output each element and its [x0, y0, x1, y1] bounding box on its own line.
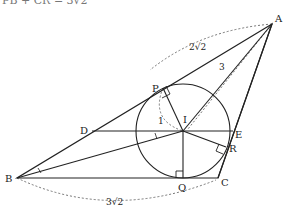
side-ac — [218, 24, 272, 178]
label-c: C — [221, 177, 229, 188]
label-i: I — [183, 114, 187, 125]
label-ap-length: 2√2 — [189, 42, 206, 52]
geometry-figure: A B C D E I P Q R 2√2 3 1 3√2 — [0, 0, 286, 211]
label-ai-length: 3 — [219, 62, 225, 72]
right-angle-q — [176, 171, 183, 178]
radius-ip — [163, 88, 183, 131]
label-d: D — [80, 125, 88, 136]
label-a: A — [274, 13, 283, 24]
label-p: P — [152, 83, 159, 94]
label-r: R — [229, 143, 237, 154]
triangle-abc — [17, 24, 272, 178]
radius-ir — [183, 131, 226, 147]
label-b: B — [5, 173, 12, 184]
label-q: Q — [178, 182, 186, 193]
label-bc-length: 3√2 — [106, 197, 123, 207]
label-e: E — [235, 129, 242, 140]
label-pi-length: 1 — [158, 116, 164, 126]
